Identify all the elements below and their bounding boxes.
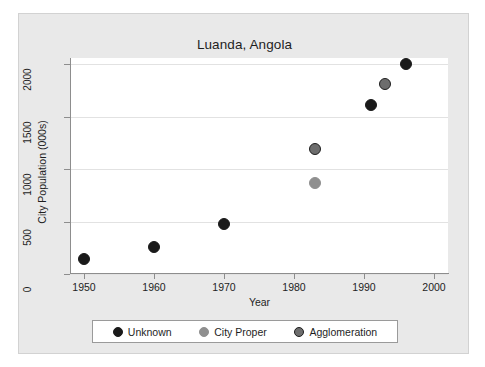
legend-item-label: Unknown: [128, 326, 172, 338]
legend-item-agglomeration[interactable]: Agglomeration: [294, 326, 377, 338]
data-point: [309, 177, 321, 189]
x-tick-label-1970: 1970: [204, 281, 244, 293]
x-axis-line: [70, 273, 449, 274]
gridline-y-2000: [70, 64, 448, 65]
legend-marker-icon: [199, 327, 209, 337]
x-axis-title: Year: [70, 296, 449, 308]
x-tick-label-1950: 1950: [64, 281, 104, 293]
x-tick-1960: [154, 274, 155, 279]
legend-marker-icon: [294, 327, 304, 337]
x-tick-label-2000: 2000: [414, 281, 454, 293]
y-tick-0: [64, 274, 70, 275]
legend-item-unknown[interactable]: Unknown: [113, 326, 172, 338]
x-tick-2000: [434, 274, 435, 279]
gridline-y-0: [70, 274, 448, 275]
y-tick-1500: [64, 117, 70, 118]
x-tick-1950: [84, 274, 85, 279]
legend-item-label: City Proper: [214, 326, 267, 338]
y-tick-label-1500: 1500: [22, 115, 33, 149]
data-point: [218, 218, 230, 230]
y-tick-label-2000: 2000: [22, 63, 33, 97]
chart-legend: UnknownCity ProperAgglomeration: [92, 320, 398, 343]
y-axis-title: City Population (000s): [36, 92, 48, 252]
legend-item-city-proper[interactable]: City Proper: [199, 326, 267, 338]
plot-area: [70, 58, 448, 274]
y-tick-500: [64, 222, 70, 223]
figure-root: Luanda, Angola 0500100015002000 19501960…: [0, 0, 485, 367]
y-tick-label-500: 500: [22, 220, 33, 254]
legend-item-label: Agglomeration: [309, 326, 377, 338]
y-tick-1000: [64, 169, 70, 170]
x-tick-label-1980: 1980: [274, 281, 314, 293]
legend-marker-icon: [113, 327, 123, 337]
x-tick-1990: [364, 274, 365, 279]
y-tick-label-1000: 1000: [22, 168, 33, 202]
x-tick-label-1960: 1960: [134, 281, 174, 293]
chart-title: Luanda, Angola: [19, 37, 470, 52]
y-tick-label-0: 0: [22, 273, 33, 307]
x-tick-1980: [294, 274, 295, 279]
data-point: [365, 99, 377, 111]
gridline-y-1000: [70, 169, 448, 170]
x-tick-1970: [224, 274, 225, 279]
x-tick-label-1990: 1990: [344, 281, 384, 293]
y-tick-2000: [64, 64, 70, 65]
graph-canvas: Luanda, Angola 0500100015002000 19501960…: [18, 13, 469, 354]
gridline-y-500: [70, 222, 448, 223]
gridline-y-1500: [70, 117, 448, 118]
y-axis-line: [70, 58, 71, 274]
